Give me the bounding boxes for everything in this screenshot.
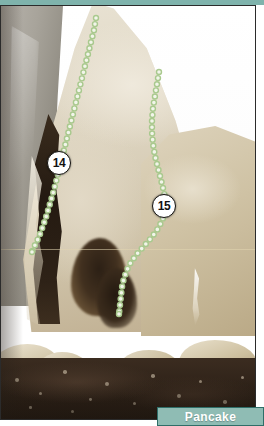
route-dot — [131, 256, 136, 261]
route-dot — [73, 100, 78, 105]
route-dot — [155, 162, 160, 167]
route-overlay — [1, 6, 255, 419]
route-dot — [119, 290, 124, 295]
route-dot — [120, 284, 125, 289]
crag-photo-frame: 14 15 — [0, 5, 256, 420]
route-dot — [150, 137, 155, 142]
route-line-14 — [30, 16, 99, 255]
route-dot — [158, 174, 163, 179]
route-dot — [156, 168, 161, 173]
route-dot — [128, 261, 133, 266]
route-dot — [30, 250, 35, 255]
route-dot — [143, 241, 148, 246]
route-dot — [49, 196, 54, 201]
route-dot — [158, 222, 163, 227]
route-dot — [147, 237, 152, 242]
route-dot — [69, 118, 74, 123]
route-marker-15[interactable]: 15 — [152, 194, 176, 218]
route-dot — [82, 64, 87, 69]
route-dot — [75, 94, 80, 99]
route-dot — [152, 149, 157, 154]
route-dot — [45, 208, 50, 213]
topo-page: 14 15 Pancake — [0, 0, 264, 426]
route-dot — [155, 76, 160, 81]
crag-name-label: Pancake — [157, 407, 264, 426]
route-dot — [125, 266, 130, 271]
route-dot — [38, 231, 43, 236]
route-dot — [76, 88, 81, 93]
route-dot — [90, 34, 95, 39]
route-dot — [118, 303, 123, 308]
route-dot — [94, 16, 99, 21]
route-marker-14[interactable]: 14 — [47, 151, 71, 175]
route-dot — [153, 155, 158, 160]
route-dot — [121, 278, 126, 283]
route-dot — [64, 136, 69, 141]
route-dot — [139, 246, 144, 251]
route-dot — [88, 40, 93, 45]
route-dot — [150, 106, 155, 111]
route-dot — [150, 131, 155, 136]
route-dot — [72, 106, 77, 111]
route-dot — [91, 28, 96, 33]
route-dot — [152, 94, 157, 99]
route-dot — [66, 130, 71, 135]
route-dot — [87, 46, 92, 51]
route-dot — [151, 143, 156, 148]
route-dot — [44, 214, 49, 219]
crag-name-text: Pancake — [185, 411, 237, 423]
route-dot — [150, 119, 155, 124]
route-dot — [151, 100, 156, 105]
crag-photo: 14 15 — [1, 6, 255, 419]
route-dot — [78, 82, 83, 87]
route-dot — [47, 202, 52, 207]
route-dot — [70, 112, 75, 117]
route-dot — [151, 232, 156, 237]
route-dot — [84, 58, 89, 63]
route-dot — [150, 125, 155, 130]
route-dot — [81, 70, 86, 75]
route-dot — [135, 251, 140, 256]
route-dot — [123, 272, 128, 277]
route-dot — [118, 296, 123, 301]
route-dot — [150, 112, 155, 117]
route-dot — [85, 52, 90, 57]
route-dot — [63, 142, 68, 147]
route-dot — [153, 88, 158, 93]
route-dot — [157, 70, 162, 75]
route-dot — [35, 237, 40, 242]
route-dot — [52, 184, 57, 189]
route-dot — [54, 178, 59, 183]
route-dot — [92, 22, 97, 27]
route-dot — [79, 76, 84, 81]
route-dot — [154, 82, 159, 87]
route-dot — [159, 180, 164, 185]
route-dot — [161, 186, 166, 191]
route-dot — [32, 243, 37, 248]
route-dot — [67, 124, 72, 129]
route-line-15 — [117, 70, 169, 317]
route-dot — [42, 220, 47, 225]
route-dot — [117, 312, 122, 317]
route-dot — [155, 227, 160, 232]
route-dot — [40, 226, 45, 231]
route-dot — [51, 190, 56, 195]
